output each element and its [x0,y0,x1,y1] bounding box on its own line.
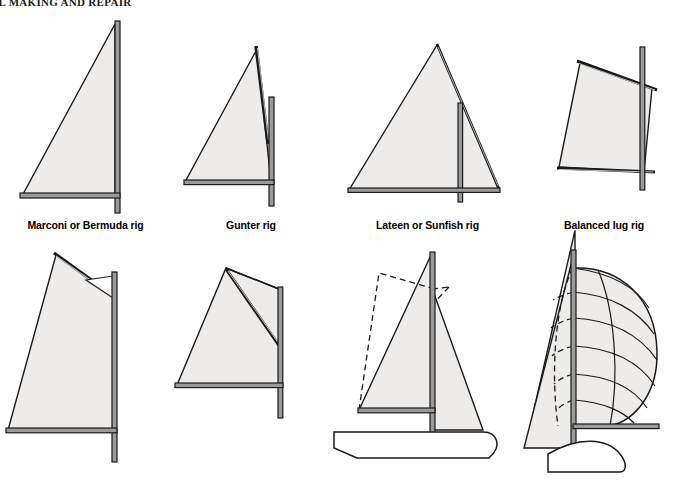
gaff-drawing [0,240,171,486]
spinnaker-mast [571,250,576,466]
lateen-drawing [331,0,524,240]
rig-cell-jib: Jib set on a Marconi or gaff rig [331,240,524,486]
marconi-mainsail [22,24,115,196]
spritsail-mainsail [177,268,279,385]
rig-cell-lateen: Lateen or Sunfish rig [331,0,524,240]
balanced-lug-drawing [524,0,684,240]
caption-marconi: Marconi or Bermuda rig [0,219,171,231]
gaff-boom [6,428,117,433]
gunter-drawing [171,0,331,240]
lateen-mast [458,103,463,202]
caption-lateen: Lateen or Sunfish rig [331,219,524,231]
balanced-lug-mast [640,47,645,190]
spritsail-mast [278,287,283,418]
rig-cell-gunter: Gunter rig [171,0,331,240]
gaff-mast [112,272,117,462]
marconi-boom [20,193,120,198]
marconi-mast [115,21,120,213]
rig-cell-spritsail: Spritsail rig [171,240,331,486]
spinnaker-drawing [524,240,684,486]
jib-mainsail [359,255,431,410]
caption-gunter: Gunter rig [171,219,331,231]
jib-drawing [331,240,524,486]
jib-hull [334,432,497,458]
spinnaker-boom [573,424,659,429]
figure-page: IL MAKING AND REPAIR Marconi or Bermuda … [0,0,684,486]
rig-grid: Marconi or Bermuda rig Gunter rig [0,0,684,486]
lateen-mainsail [349,45,499,190]
spritsail-drawing [171,240,331,486]
gunter-mast [269,97,274,206]
jib-foresail [432,288,483,430]
rig-cell-balanced-lug: Balanced lug rig [524,0,684,240]
jib-main-boom [358,408,435,413]
gunter-boom [184,180,274,185]
rig-cell-marconi: Marconi or Bermuda rig [0,0,171,240]
rig-cell-spinnaker: Spinnaker for sailing downwind [524,240,684,486]
spritsail-boom [175,383,283,388]
balanced-lug-mainsail [559,63,652,172]
rig-cell-gaff: Gaff rig [0,240,171,486]
caption-balanced-lug: Balanced lug rig [524,219,684,231]
lateen-boom [348,188,500,192]
marconi-drawing [0,0,171,240]
